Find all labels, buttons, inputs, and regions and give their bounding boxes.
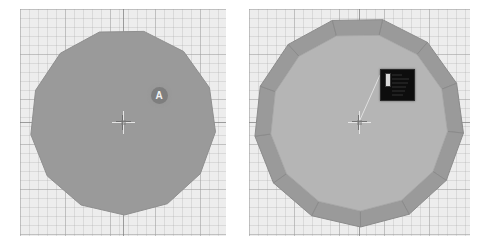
black-info-panel[interactable] [380,69,415,101]
screenshot-root: A [0,0,489,252]
panel-content-row [392,74,402,76]
marker-a-badge[interactable]: A [151,87,168,104]
cursor-center-dot [357,120,362,125]
cursor-3d [112,111,135,134]
panel-accent-bar [385,73,391,87]
panel-content-row [392,78,409,80]
viewport-left[interactable]: A [20,9,226,236]
panel-content-row [392,82,408,84]
panel-content-row [392,86,406,88]
cursor-center-dot [121,120,126,125]
panel-content-row [392,94,403,96]
viewport-right[interactable] [249,9,470,236]
panel-content-row [392,90,405,92]
panel-content-rows [392,74,411,96]
cursor-3d [348,111,371,134]
